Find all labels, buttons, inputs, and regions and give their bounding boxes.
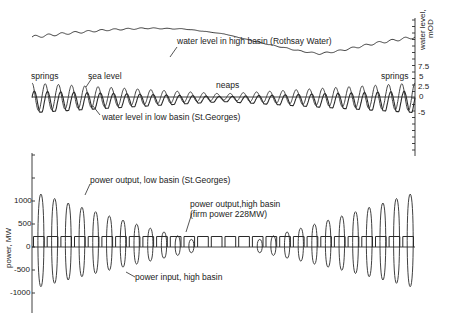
bottom-left-axis: [32, 153, 35, 313]
bottom-ytick-minus-500: -500: [14, 266, 30, 274]
high-basin-output-label-2: (firm power 228MW): [190, 210, 267, 219]
top-ytick-0: 0: [419, 93, 423, 101]
high-basin-output-label-1: power output,high basin: [190, 200, 280, 209]
top-ytick-7-5: 7.5: [418, 63, 429, 71]
firm-power-line: [34, 237, 414, 248]
high-basin-input-label: power input, high basin: [135, 273, 222, 282]
top-ytick-2-5: 2.5: [418, 83, 429, 91]
springs-left-label: springs: [31, 72, 58, 81]
top-ylabel: water level, mOD: [419, 10, 436, 50]
bottom-ytick-minus-1000: -1000: [10, 289, 30, 297]
high-basin-label: water level in high basin (Rothsay Water…: [177, 37, 332, 46]
low-basin-output-label: power output, low basin (St.Georges): [90, 176, 230, 185]
bottom-ytick-0: 0: [26, 243, 30, 251]
sea-level-label: sea level: [88, 72, 122, 81]
bottom-ytick-500: 500: [18, 220, 31, 228]
bottom-ylabel: power, MW: [5, 228, 13, 268]
top-ytick-5: 5: [419, 73, 423, 81]
top-ylabel-line2: mOD: [427, 10, 435, 50]
neaps-label: neaps: [216, 81, 239, 90]
low-basin-label: water level in low basin (St.Georges): [102, 113, 240, 122]
springs-right-label: springs: [381, 72, 408, 81]
bottom-ytick-1000: 1000: [14, 197, 32, 205]
top-ytick-minus-5: -5: [418, 109, 425, 117]
tidal-power-figure: [0, 0, 450, 320]
